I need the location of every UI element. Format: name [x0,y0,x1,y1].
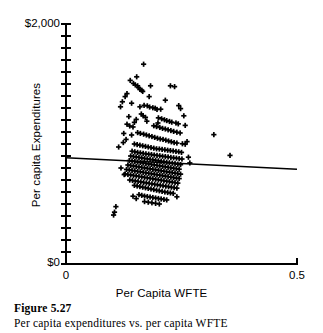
scatter-point-marker [123,137,128,142]
scatter-point-marker [172,84,177,89]
scatter-points [111,62,233,218]
scatter-point-marker [141,62,146,67]
figure-root: Per capita Expenditures $2,000 $0 0 0.5 … [0,0,323,333]
x-axis-tick-label-min: 0 [56,269,76,281]
scatter-point-marker [186,155,191,160]
scatter-point-marker [227,153,232,158]
scatter-point-marker [147,94,152,99]
y-axis-title: Per capita Expenditures [30,45,42,245]
scatter-point-marker [163,98,168,103]
scatter-point-marker [122,172,127,177]
scatter-point-marker [171,191,176,196]
figure-caption: Figure 5.27 Per capita expenditures vs. … [14,302,314,330]
scatter-point-marker [174,186,179,191]
scatter-point-marker [126,114,131,119]
scatter-point-marker [121,131,126,136]
scatter-point-marker [134,74,139,79]
scatter-point-marker [148,83,153,88]
scatter-point-marker [112,210,117,215]
y-axis-ticks [61,24,71,264]
scatter-point-marker [118,104,123,109]
scatter-point-marker [178,130,183,135]
scatter-chart [0,0,323,290]
scatter-point-marker [120,99,125,104]
scatter-point-marker [181,113,186,118]
scatter-point-marker [164,197,169,202]
scatter-point-marker [157,125,162,130]
x-axis-title: Per Capita WFTE [0,287,323,299]
x-axis-tick-label-max: 0.5 [283,269,311,281]
scatter-point-marker [116,144,121,149]
scatter-point-marker [211,132,216,137]
scatter-point-marker [157,201,162,206]
scatter-point-marker [174,194,179,199]
scatter-point-marker [111,212,116,217]
scatter-point-marker [121,140,126,145]
scatter-point-marker [129,132,134,137]
scatter-point-marker [113,204,118,209]
scatter-point-marker [128,78,133,83]
scatter-point-marker [156,115,161,120]
scatter-point-marker [177,176,182,181]
scatter-point-marker [159,116,164,121]
scatter-point-marker [130,124,135,129]
scatter-point-marker [158,107,163,112]
scatter-point-marker [129,101,134,106]
y-axis-tick-label-max: $2,000 [8,17,60,29]
scatter-point-marker [179,156,184,161]
scatter-point-marker [175,181,180,186]
scatter-point-marker [118,165,123,170]
scatter-point-marker [183,123,188,128]
scatter-point-marker [177,167,182,172]
figure-caption-text: Per capita expenditures vs. per capita W… [14,316,314,330]
figure-caption-number: Figure 5.27 [14,302,314,315]
scatter-point-marker [178,172,183,177]
scatter-point-marker [174,140,179,145]
y-axis-tick-label-min: $0 [20,256,60,268]
scatter-point-marker [179,150,184,155]
chart-svg [0,0,323,290]
